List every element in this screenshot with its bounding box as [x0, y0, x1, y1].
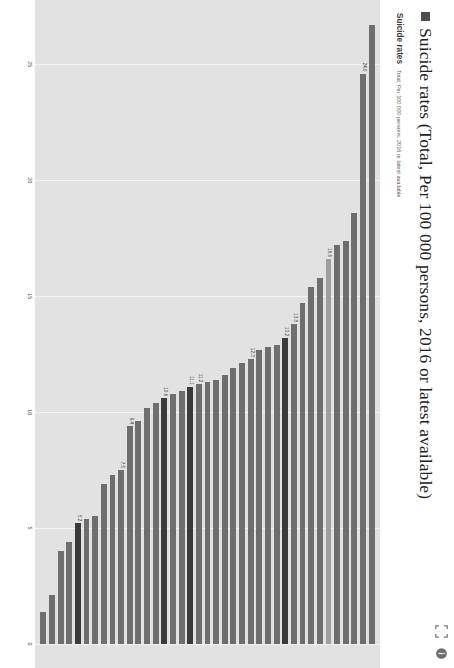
bar[interactable] [369, 25, 375, 644]
bar-row[interactable] [92, 0, 98, 668]
bar-row[interactable] [308, 0, 314, 668]
bar-row[interactable] [179, 0, 185, 668]
bar-row[interactable] [239, 0, 245, 668]
bar-row[interactable] [101, 0, 107, 668]
bar-value-label: 12.3 [249, 348, 254, 359]
bar[interactable] [101, 484, 107, 644]
bar[interactable] [49, 595, 55, 644]
bar[interactable] [153, 403, 159, 644]
bar[interactable] [84, 519, 90, 644]
x-tick-label: 15 [27, 293, 33, 299]
bar-row[interactable] [40, 0, 46, 668]
bar-row[interactable] [49, 0, 55, 668]
bar-row[interactable] [84, 0, 90, 668]
bar[interactable] [179, 391, 185, 644]
bar[interactable] [213, 380, 219, 644]
bar-row[interactable] [66, 0, 72, 668]
bar-row[interactable] [265, 0, 271, 668]
bar-row[interactable] [369, 0, 375, 668]
bar-row[interactable] [317, 0, 323, 668]
bar-row[interactable] [300, 0, 306, 668]
bar-row[interactable]: 12.3 [248, 0, 254, 668]
chart-screenshot: Suicide rates (Total, Per 100 000 person… [0, 0, 454, 668]
subtitle-label: Suicide rates [395, 13, 404, 64]
bar-row[interactable] [58, 0, 64, 668]
info-icon[interactable] [435, 647, 448, 660]
bar-row[interactable] [343, 0, 349, 668]
bar-row[interactable] [274, 0, 280, 668]
bar-value-label: 9.4 [128, 418, 133, 426]
bar-value-label: 13.8 [292, 313, 297, 324]
bar-row[interactable] [170, 0, 176, 668]
chart-figure: Suicide rates (Total, Per 100 000 person… [0, 0, 454, 668]
bar[interactable] [110, 475, 116, 644]
bar[interactable] [343, 241, 349, 644]
bar[interactable] [239, 363, 245, 644]
bar[interactable] [127, 426, 133, 644]
bar[interactable] [300, 303, 306, 644]
bar[interactable] [40, 612, 46, 644]
bar[interactable] [334, 245, 340, 644]
bar[interactable] [170, 394, 176, 644]
bar-value-label: 13.2 [284, 327, 289, 338]
chart-toolbar[interactable] [435, 625, 448, 660]
bar[interactable] [291, 324, 297, 644]
bar-row[interactable]: 7.5 [118, 0, 124, 668]
bar-row[interactable]: 16.6 [326, 0, 332, 668]
bar[interactable] [231, 368, 237, 644]
page-title: Suicide rates (Total, Per 100 000 person… [415, 28, 436, 499]
bar[interactable] [360, 74, 366, 644]
bar-row[interactable] [256, 0, 262, 668]
bar-row[interactable] [144, 0, 150, 668]
bar-row[interactable] [222, 0, 228, 668]
bar[interactable] [196, 384, 202, 644]
bar[interactable] [265, 347, 271, 644]
bar[interactable] [58, 551, 64, 644]
bar-row[interactable]: 11.1 [187, 0, 193, 668]
bar[interactable] [248, 359, 254, 644]
bar[interactable] [326, 259, 332, 644]
plot-area: 24.616.613.813.212.311.211.110.69.47.55.… [35, 0, 380, 668]
x-tick-label: 5 [27, 527, 33, 530]
bar-row[interactable] [153, 0, 159, 668]
bar[interactable] [308, 287, 314, 644]
bar-row[interactable]: 9.4 [127, 0, 133, 668]
bar[interactable] [118, 470, 124, 644]
bar-row[interactable] [213, 0, 219, 668]
bar-row[interactable]: 13.2 [282, 0, 288, 668]
bar-row[interactable]: 13.8 [291, 0, 297, 668]
bar[interactable] [144, 408, 150, 644]
bar[interactable] [256, 350, 262, 644]
bar[interactable] [274, 345, 280, 644]
bar-row[interactable] [351, 0, 357, 668]
bar-value-label: 7.5 [119, 462, 124, 470]
x-tick-label: 10 [27, 409, 33, 415]
bar[interactable] [282, 338, 288, 644]
bar[interactable] [135, 421, 141, 644]
bar-row[interactable]: 24.6 [360, 0, 366, 668]
bar[interactable] [92, 516, 98, 644]
bar[interactable] [75, 523, 81, 644]
bar-value-label: 11.1 [189, 376, 194, 387]
bar-row[interactable]: 11.2 [196, 0, 202, 668]
bar-row[interactable]: 5.2 [75, 0, 81, 668]
bar[interactable] [187, 387, 193, 644]
bar[interactable] [222, 375, 228, 644]
bar-row[interactable] [110, 0, 116, 668]
bar[interactable] [205, 382, 211, 644]
bar-row[interactable] [205, 0, 211, 668]
bar-row[interactable] [231, 0, 237, 668]
bar[interactable] [66, 542, 72, 644]
title-square-marker-icon [421, 12, 430, 21]
bar-value-label: 11.2 [197, 374, 202, 385]
category-axis: LithuaniaKoreaSloveniaLatviaHungaryJapan… [0, 0, 19, 668]
bar-row[interactable] [135, 0, 141, 668]
bar-value-label: 10.6 [163, 387, 168, 398]
x-tick-label: 0 [27, 643, 33, 646]
fullscreen-icon[interactable] [435, 625, 448, 638]
bar[interactable] [317, 278, 323, 644]
bar[interactable] [161, 398, 167, 644]
bar-row[interactable] [334, 0, 340, 668]
bar-row[interactable]: 10.6 [161, 0, 167, 668]
bar[interactable] [351, 213, 357, 644]
